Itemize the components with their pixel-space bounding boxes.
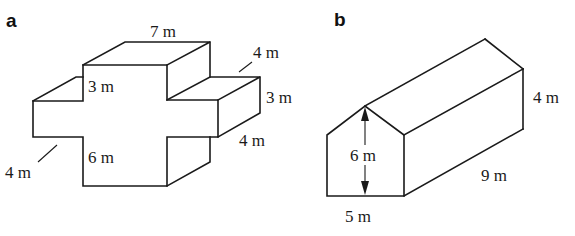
figure-a: a 7 m 4 m 3 m 4 m 3 m 6 m 4 m	[5, 10, 292, 186]
figure-b: b 4 m 6 m 9 m 5 m	[327, 9, 559, 226]
dim-left-depth: 4 m	[5, 163, 31, 182]
dim-top-width: 7 m	[150, 22, 176, 41]
dim-length: 9 m	[481, 166, 507, 185]
left-arm-top-face	[33, 77, 83, 101]
arrowhead-down-icon	[361, 181, 369, 195]
dim-base-width: 5 m	[345, 207, 371, 226]
prism-bottom-edge	[404, 129, 523, 196]
dim-top-right-depth: 4 m	[253, 43, 279, 62]
dim-right-arm-height: 3 m	[266, 88, 292, 107]
leader-line-top-right	[239, 62, 252, 72]
right-arm-top-face	[167, 77, 260, 100]
prism-ridge-edge	[365, 39, 485, 106]
figure-canvas: a 7 m 4 m 3 m 4 m 3 m 6 m 4 m b	[0, 0, 575, 236]
panel-label-b: b	[334, 9, 346, 30]
lower-side-face	[167, 137, 210, 186]
prism-back-roof-edge	[485, 39, 523, 69]
dim-right-arm-length: 4 m	[239, 131, 265, 150]
dim-wall-height: 4 m	[533, 88, 559, 107]
panel-label-a: a	[6, 10, 17, 31]
dim-total-height: 6 m	[350, 146, 376, 165]
dim-inner-bottom-height: 6 m	[88, 148, 114, 167]
cross-top-face	[83, 42, 210, 65]
leader-line-left	[38, 145, 57, 162]
cross-front-face	[33, 65, 218, 186]
dim-inner-top-height: 3 m	[88, 77, 114, 96]
prism-eave-edge	[404, 69, 523, 135]
right-arm-side-face	[218, 77, 260, 137]
